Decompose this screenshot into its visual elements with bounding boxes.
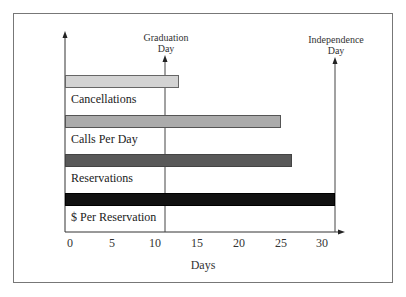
x-tick-5: 5 <box>109 236 115 251</box>
x-tick-10: 10 <box>149 236 161 251</box>
x-tick-30: 30 <box>316 236 328 251</box>
bar-calls-per-day <box>65 115 281 128</box>
independence-label-line2: Day <box>308 45 364 56</box>
x-axis-arrow-icon <box>338 230 345 235</box>
x-tick-25: 25 <box>275 236 287 251</box>
x-tick-20: 20 <box>233 236 245 251</box>
graduation-label-line2: Day <box>144 43 189 54</box>
bar-reservations <box>65 154 292 167</box>
category-label-cancellations: Cancellations <box>71 92 136 107</box>
x-axis-label: Days <box>191 258 216 273</box>
independence-day-label: Independence Day <box>308 34 364 56</box>
category-label-dollar-per-reservation: $ Per Reservation <box>71 210 156 225</box>
x-tick-15: 15 <box>191 236 203 251</box>
graduation-arrow-icon <box>163 55 168 62</box>
independence-label-line1: Independence <box>308 34 364 45</box>
category-label-calls-per-day: Calls Per Day <box>71 132 138 147</box>
graduation-day-label: Graduation Day <box>144 32 189 54</box>
category-label-reservations: Reservations <box>71 171 133 186</box>
graduation-label-line1: Graduation <box>144 32 189 43</box>
bar-cancellations <box>65 75 179 88</box>
y-axis-arrow-icon <box>63 31 68 38</box>
independence-arrow-icon <box>333 57 338 64</box>
bar-dollar-per-reservation <box>65 193 335 206</box>
x-tick-0: 0 <box>67 236 73 251</box>
